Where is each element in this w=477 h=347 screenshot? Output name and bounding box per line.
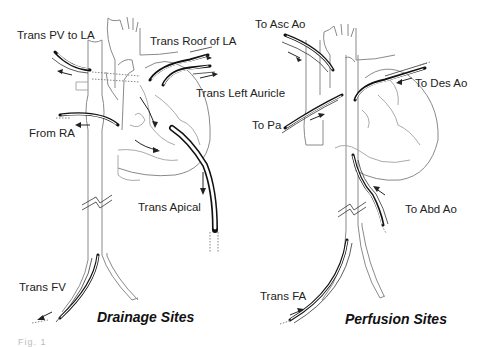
label-to-pa: To Pa <box>252 120 281 132</box>
label-trans-pv-to-la: Trans PV to LA <box>17 30 95 42</box>
drainage-sites-title: Drainage Sites <box>97 310 194 324</box>
label-from-ra: From RA <box>29 128 75 140</box>
perfusion-sites-title: Perfusion Sites <box>345 312 447 326</box>
label-trans-left-auricle: Trans Left Auricle <box>196 88 285 100</box>
label-trans-roof-of-la: Trans Roof of LA <box>150 36 237 48</box>
label-to-abd-ao: To Abd Ao <box>405 204 457 216</box>
figure-caption: Fig. 1 <box>18 337 47 347</box>
label-trans-apical: Trans Apical <box>138 202 201 214</box>
label-to-asc-ao: To Asc Ao <box>255 19 306 31</box>
label-trans-fa: Trans FA <box>260 291 306 303</box>
label-to-des-ao: To Des Ao <box>415 78 467 90</box>
label-trans-fv: Trans FV <box>19 282 66 294</box>
